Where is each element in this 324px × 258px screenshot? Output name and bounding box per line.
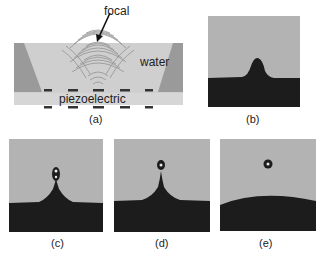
panel-d-photo — [114, 139, 210, 232]
caption-b: (b) — [246, 113, 259, 125]
liquid-jet — [114, 171, 210, 232]
liquid-bump — [208, 58, 300, 107]
panel-e-photo — [220, 139, 316, 231]
caption-c: (c) — [51, 237, 64, 249]
electrodes-bottom — [44, 106, 153, 109]
panel-a-schematic: focal water piezoelectric — [0, 0, 200, 120]
panel-c-photo — [9, 139, 103, 232]
caption-d: (d) — [155, 237, 168, 249]
piezoelectric-label: piezoelectric — [59, 92, 126, 106]
panel-b-photo — [208, 16, 300, 107]
liquid-jet — [9, 179, 103, 232]
caption-e: (e) — [259, 237, 272, 249]
focal-label: focal — [104, 4, 129, 18]
water-label: water — [140, 55, 169, 69]
forming-droplet — [52, 167, 60, 181]
caption-a: (a) — [89, 113, 102, 125]
liquid-surface — [220, 196, 316, 231]
